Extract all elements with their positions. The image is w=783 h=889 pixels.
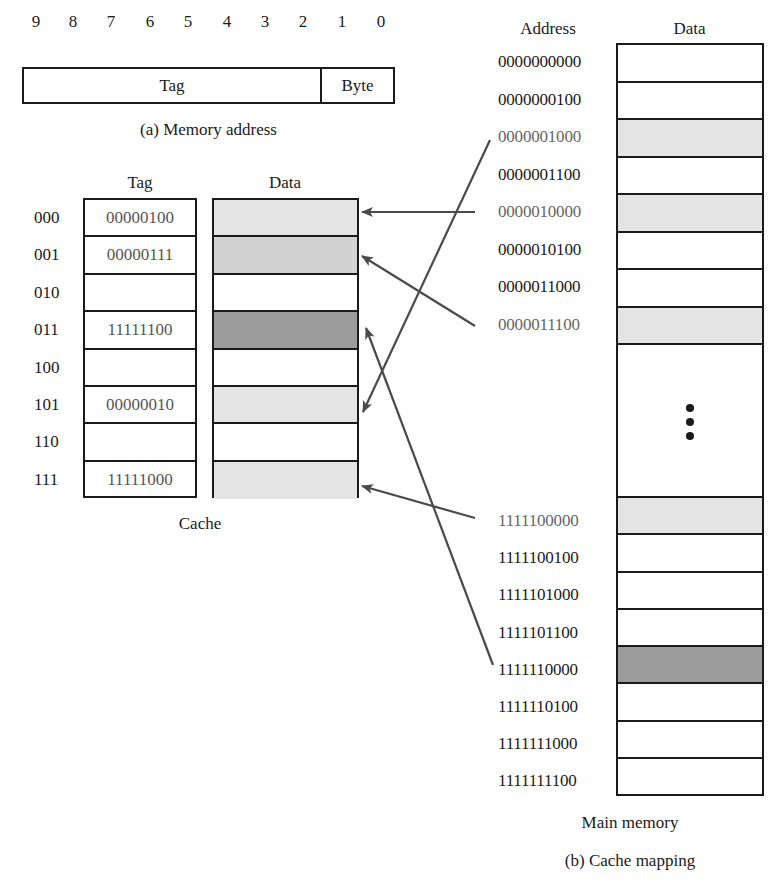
arrow-1111100000-to-111 — [362, 486, 475, 518]
mapping-arrows — [0, 0, 783, 889]
arrow-1111110000-to-011 — [366, 328, 493, 665]
